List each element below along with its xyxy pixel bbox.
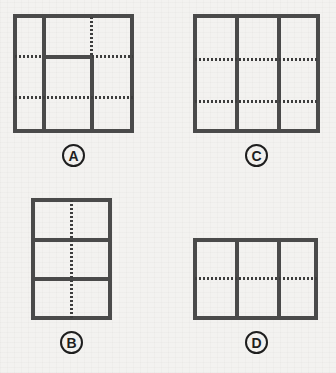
figure-c-dotted-horizontal-lower bbox=[195, 100, 319, 103]
figure-c-outer-border bbox=[193, 14, 320, 133]
figure-b-dotted-vertical-center bbox=[70, 200, 73, 318]
answer-options-sheet: A B C D bbox=[0, 0, 336, 373]
figure-a-dotted-horizontal-upper-left bbox=[15, 55, 43, 58]
option-label-a[interactable]: A bbox=[62, 144, 85, 167]
figure-a-dotted-horizontal-upper-right bbox=[92, 55, 133, 58]
figure-c-dotted-horizontal-upper bbox=[195, 58, 319, 61]
figure-a-solid-vertical-left bbox=[42, 14, 46, 133]
figure-a-outer-border bbox=[13, 14, 134, 133]
figure-d-dotted-horizontal-center bbox=[195, 277, 317, 280]
figure-c-solid-vertical-left bbox=[235, 14, 239, 133]
figure-a-dotted-vertical-upper bbox=[90, 17, 93, 55]
option-label-c[interactable]: C bbox=[245, 144, 268, 167]
figure-a-solid-vertical-right-lower bbox=[90, 55, 94, 133]
figure-c-solid-vertical-right bbox=[277, 14, 281, 133]
figure-a-dotted-horizontal-lower bbox=[15, 96, 133, 99]
option-label-b[interactable]: B bbox=[60, 331, 83, 354]
figure-a-solid-horizontal-segment bbox=[42, 55, 93, 59]
option-label-d[interactable]: D bbox=[245, 331, 268, 354]
